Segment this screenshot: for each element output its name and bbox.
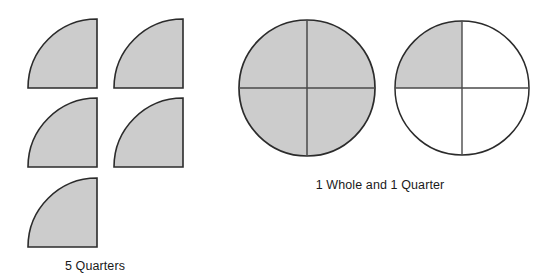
quarter-circle-2: [114, 19, 183, 88]
caption-five-quarters: 5 Quarters: [0, 259, 190, 273]
quarter-circle-group: [28, 19, 183, 247]
quarter-circle-quadrant-top-left: [395, 21, 462, 88]
figure-canvas: 5 Quarters 1 Whole and 1 Quarter: [0, 0, 550, 278]
caption-one-whole-and-one-quarter: 1 Whole and 1 Quarter: [290, 178, 470, 192]
whole-circle-quadrant-top-left: [239, 20, 307, 88]
quarter-shaded-circle-group: [395, 21, 529, 155]
whole-circle-quadrant-bottom-left: [239, 88, 307, 156]
fraction-diagram: [0, 0, 550, 278]
quarter-circle-4: [114, 98, 183, 167]
quarter-circle-3: [28, 98, 97, 167]
quarter-circle-1: [28, 19, 97, 88]
whole-circle-group: [239, 20, 375, 156]
whole-circle-quadrant-top-right: [307, 20, 375, 88]
quarter-circle-5: [28, 178, 97, 247]
whole-circle-quadrant-bottom-right: [307, 88, 375, 156]
